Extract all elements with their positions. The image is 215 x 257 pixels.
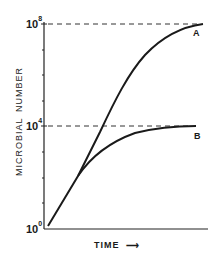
y-tick-label-0: 100 bbox=[26, 222, 42, 235]
series-label-b: B bbox=[194, 131, 201, 141]
curve-b bbox=[78, 126, 196, 176]
y-axis-label-number: NUMBER bbox=[14, 67, 24, 112]
x-axis-label: TIME ⟶ bbox=[94, 240, 140, 250]
x-axis-label-text: TIME bbox=[94, 240, 120, 250]
curve-a bbox=[48, 24, 203, 226]
y-tick-label-8: 108 bbox=[26, 17, 42, 30]
y-tick-label-4: 104 bbox=[26, 119, 42, 132]
arrow-right-icon: ⟶ bbox=[126, 240, 140, 250]
series-label-a: A bbox=[193, 28, 200, 38]
y-axis-label-microbial: MICROBIAL bbox=[14, 117, 24, 176]
